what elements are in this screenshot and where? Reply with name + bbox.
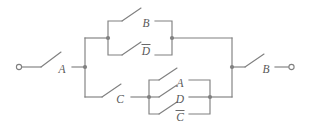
- switch-a-block-left-lead: [149, 80, 159, 97]
- switch-a-input-label: A: [57, 63, 66, 75]
- switching-circuit-diagram: A B D C A D C B: [0, 0, 310, 131]
- switch-d-upper-right-lead: [155, 38, 172, 55]
- switch-a-block-right-lead: [189, 80, 210, 97]
- switch-c-block-blade[interactable]: [159, 102, 177, 114]
- right-terminal-ring: [289, 64, 294, 69]
- circuit-canvas: A B D C A D C B: [0, 0, 310, 131]
- left-terminal-ring: [16, 64, 21, 69]
- switch-d-upper-left-lead: [108, 38, 122, 55]
- switch-d-upper-label: D: [141, 45, 151, 57]
- switch-a-block-blade[interactable]: [159, 68, 177, 80]
- switch-b-upper-label: B: [142, 17, 149, 29]
- switch-b-upper-blade[interactable]: [122, 8, 141, 21]
- switch-b-upper-right-lead: [155, 21, 172, 38]
- switch-b-output-blade[interactable]: [245, 54, 264, 67]
- switch-c-block-right-lead: [189, 97, 210, 114]
- switch-d-block-blade[interactable]: [159, 85, 177, 97]
- switch-c-lower-label: C: [116, 93, 124, 105]
- switch-d-upper-blade[interactable]: [122, 42, 141, 55]
- switch-c-block-label: C: [176, 111, 184, 123]
- switch-b-output-label: B: [262, 63, 269, 75]
- switch-d-block-label: D: [175, 93, 185, 105]
- switch-b-upper-left-lead: [108, 21, 122, 38]
- switch-a-block-label: A: [175, 77, 184, 89]
- switch-c-block-left-lead: [149, 97, 159, 114]
- left-bus-node-dot: [83, 65, 87, 69]
